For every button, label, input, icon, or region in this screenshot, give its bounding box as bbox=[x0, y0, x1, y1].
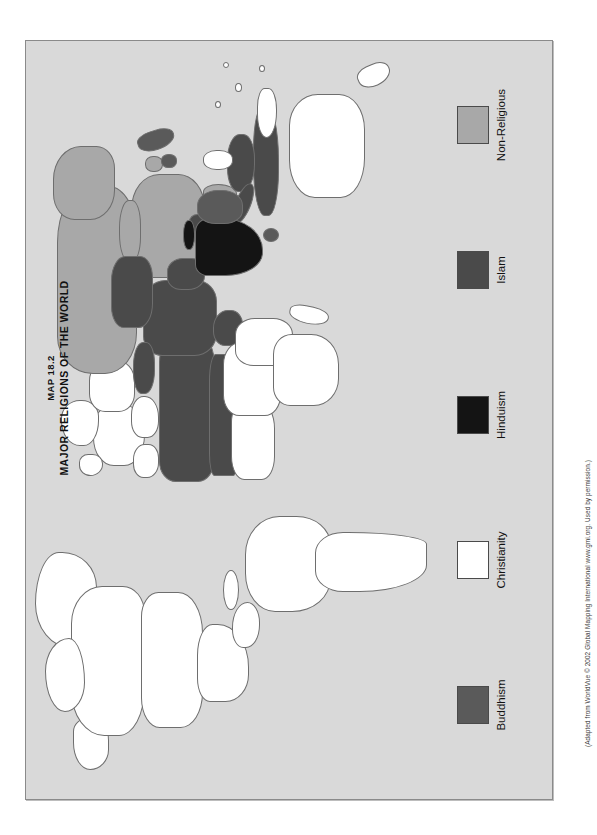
region-japan bbox=[135, 125, 177, 156]
map-title: MAJOR RELIGIONS OF THE WORLD bbox=[58, 258, 70, 498]
map-legend: Buddhism Christianity Hinduism Islam Non bbox=[457, 70, 507, 760]
legend-label-christianity: Christianity bbox=[495, 532, 507, 589]
region-central-america bbox=[232, 602, 260, 648]
region-pacific-islands-a bbox=[235, 83, 242, 92]
region-south-korea bbox=[161, 154, 177, 168]
region-philippines bbox=[203, 150, 233, 170]
region-pacific-islands-b bbox=[259, 65, 265, 72]
region-british-isles bbox=[79, 454, 103, 476]
region-italy-balkans bbox=[131, 396, 159, 438]
legend-label-hinduism: Hinduism bbox=[495, 391, 507, 439]
legend-swatch-islam bbox=[457, 251, 489, 289]
legend-label-buddhism: Buddhism bbox=[495, 679, 507, 730]
region-pacific-islands-c bbox=[215, 101, 221, 108]
map-stage: MAP 18.2 MAJOR RELIGIONS OF THE WORLD Bu… bbox=[27, 42, 551, 798]
region-iberia bbox=[133, 444, 159, 478]
attribution-text: (Adapted from WorldVue © 2002 Global Map… bbox=[584, 460, 597, 747]
title-block: MAP 18.2 MAJOR RELIGIONS OF THE WORLD bbox=[45, 258, 70, 498]
legend-swatch-hinduism bbox=[457, 396, 489, 434]
legend-item-christianity: Christianity bbox=[457, 505, 507, 615]
legend-label-non-religious: Non-Religious bbox=[495, 89, 507, 161]
region-caribbean bbox=[223, 570, 239, 610]
legend-item-hinduism: Hinduism bbox=[457, 360, 507, 470]
map-number: MAP 18.2 bbox=[45, 258, 56, 498]
map-frame: MAP 18.2 MAJOR RELIGIONS OF THE WORLD Bu… bbox=[25, 40, 553, 800]
region-canada-arctic-islands bbox=[45, 638, 85, 712]
region-pacific-islands-d bbox=[223, 62, 229, 68]
legend-item-buddhism: Buddhism bbox=[457, 650, 507, 760]
region-australia bbox=[289, 94, 365, 198]
legend-swatch-buddhism bbox=[457, 686, 489, 724]
legend-item-non-religious: Non-Religious bbox=[457, 70, 507, 180]
region-southern-africa bbox=[273, 334, 339, 406]
region-middle-east bbox=[143, 280, 217, 356]
legend-label-islam: Islam bbox=[495, 256, 507, 283]
region-turkey bbox=[133, 342, 155, 394]
region-mongolia bbox=[119, 200, 141, 262]
region-usa bbox=[141, 592, 203, 728]
region-madagascar bbox=[288, 302, 331, 328]
region-north-africa bbox=[159, 336, 215, 482]
legend-swatch-non-religious bbox=[457, 106, 489, 144]
region-south-america-south bbox=[315, 532, 427, 592]
region-india bbox=[195, 218, 263, 276]
region-new-zealand bbox=[354, 58, 394, 92]
legend-swatch-christianity bbox=[457, 541, 489, 579]
region-siberia-east bbox=[53, 146, 115, 220]
region-nepal bbox=[183, 220, 195, 250]
region-thailand-myanmar bbox=[197, 190, 243, 224]
region-central-asia bbox=[111, 256, 153, 328]
region-sri-lanka bbox=[263, 228, 279, 242]
legend-item-islam: Islam bbox=[457, 215, 507, 325]
